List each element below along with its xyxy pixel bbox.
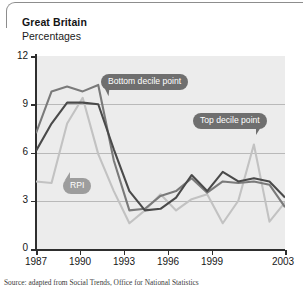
callout-tail-icon: [104, 87, 110, 95]
x-tick-label-1996: 1996: [148, 256, 188, 267]
y-tick-label-3: 3: [6, 194, 28, 205]
callout-bottom-decile: Bottom decile point: [101, 74, 188, 90]
y-tick-label-9: 9: [6, 98, 28, 109]
callout-top-decile-label: Top decile point: [200, 115, 260, 125]
x-tick-1987: [36, 250, 38, 255]
callout-top-decile: Top decile point: [193, 113, 267, 129]
callout-tail-icon: [256, 127, 261, 135]
callout-bottom-decile-label: Bottom decile point: [108, 76, 181, 86]
y-tick-label-6: 6: [6, 146, 28, 157]
page-title: Great Britain: [22, 16, 87, 28]
x-tick-1990: [80, 250, 82, 255]
source-note: Source: adapted from Social Trends, Offi…: [4, 278, 199, 287]
x-tick-label-2003: 2003: [263, 256, 303, 267]
units-label: Percentages: [22, 30, 81, 42]
callout-rpi: RPI: [63, 178, 91, 194]
x-axis: [35, 249, 285, 251]
callout-tail-icon: [65, 172, 70, 180]
x-tick-label-1993: 1993: [104, 256, 144, 267]
x-tick-1993: [124, 250, 126, 255]
x-tick-label-1999: 1999: [192, 256, 232, 267]
y-tick-label-0: 0: [6, 242, 28, 253]
chart-figure: Great Britain Percentages 12 9 6 3 0 198…: [0, 0, 303, 288]
x-tick-label-1987: 1987: [16, 256, 56, 267]
y-tick-label-12: 12: [6, 50, 28, 61]
x-tick-2003: [285, 250, 287, 255]
x-tick-1999: [212, 250, 214, 255]
callout-rpi-label: RPI: [70, 180, 84, 190]
x-tick-1996: [168, 250, 170, 255]
x-tick-label-1990: 1990: [60, 256, 100, 267]
